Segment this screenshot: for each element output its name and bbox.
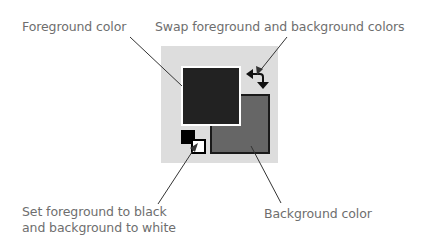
swap-arrows-icon[interactable] — [245, 68, 269, 90]
background-color-label: Background color — [264, 206, 372, 222]
default-colors-label-line2: and background to white — [22, 220, 176, 236]
default-background-white-icon — [191, 139, 206, 154]
default-colors-label-line1: Set foreground to black — [22, 204, 167, 220]
swap-colors-label: Swap foreground and background colors — [155, 19, 405, 35]
foreground-color-label: Foreground color — [22, 19, 126, 35]
foreground-color-swatch[interactable] — [181, 66, 241, 126]
